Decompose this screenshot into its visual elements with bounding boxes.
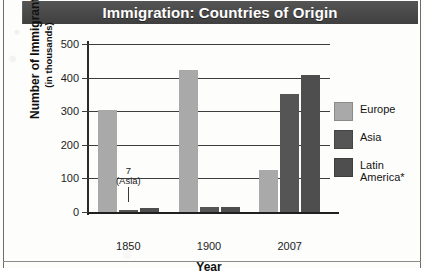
legend-label-europe: Europe <box>360 102 395 116</box>
y-axis-title: Number of Immigrants (in thousands) <box>28 0 54 130</box>
bar-europe-2007 <box>259 170 278 212</box>
asia-1850-annotation-series: (Asia) <box>106 176 150 186</box>
plot-area: 01002003004005001850190020077(Asia) <box>88 44 330 212</box>
gridline <box>88 78 330 79</box>
legend-label-asia: Asia <box>360 130 381 144</box>
annotation-leader-line <box>128 187 129 202</box>
y-axis-tick <box>82 78 88 79</box>
asia-1850-annotation: 7(Asia) <box>106 166 150 202</box>
x-axis-tick-label-2007: 2007 <box>277 240 301 252</box>
y-axis-title-units: (in thousands) <box>43 0 54 130</box>
y-axis-tick <box>82 212 88 213</box>
legend-item-asia: Asia <box>334 130 420 149</box>
chart-title: Immigration: Countries of Origin <box>103 4 338 21</box>
x-axis-tick-label-1900: 1900 <box>197 240 221 252</box>
y-axis-tick-label: 100 <box>61 172 79 184</box>
y-axis-tick-label: 300 <box>61 105 79 117</box>
y-axis-tick <box>82 145 88 146</box>
y-axis-tick-label: 0 <box>73 206 79 218</box>
legend-item-europe: Europe <box>334 102 420 121</box>
bar-latin-america-1900 <box>221 207 240 212</box>
bar-chart: Number of Immigrants (in thousands) 0100… <box>0 24 424 268</box>
bar-europe-1900 <box>179 70 198 212</box>
gridline <box>88 44 330 45</box>
legend-item-latin-america: Latin America* <box>334 158 420 183</box>
y-axis-tick-label: 200 <box>61 139 79 151</box>
x-axis-line <box>87 212 339 214</box>
legend-label-latin-america: Latin America* <box>360 158 405 183</box>
x-axis-title: Year <box>88 260 330 274</box>
y-axis-title-main: Number of Immigrants <box>28 0 42 130</box>
bar-asia-1850 <box>119 210 138 212</box>
bar-asia-1900 <box>200 207 219 212</box>
legend-swatch-asia <box>334 130 353 149</box>
y-axis-tick <box>82 178 88 179</box>
legend-swatch-latin-america <box>334 158 353 177</box>
y-axis-tick <box>82 111 88 112</box>
y-axis-tick <box>82 44 88 45</box>
bar-asia-2007 <box>280 94 299 212</box>
bar-latin-america-2007 <box>301 75 320 212</box>
y-axis-tick-label: 500 <box>61 38 79 50</box>
legend-swatch-europe <box>334 102 353 121</box>
chart-title-banner: Immigration: Countries of Origin <box>22 1 418 24</box>
chart-legend: Europe Asia Latin America* <box>334 102 420 192</box>
x-axis-tick-label-1850: 1850 <box>116 240 140 252</box>
bar-latin-america-1850 <box>140 208 159 212</box>
y-axis-line <box>87 41 89 215</box>
y-axis-tick-label: 400 <box>61 72 79 84</box>
